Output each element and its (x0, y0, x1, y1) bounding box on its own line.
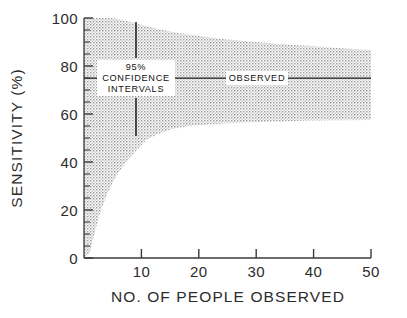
x-axis-major-ticks (141, 249, 371, 258)
x-tick-label-30: 30 (247, 263, 265, 280)
y-tick-label-0: 0 (69, 250, 78, 267)
y-tick-label-60: 60 (61, 106, 79, 123)
x-tick-label-40: 40 (305, 263, 323, 280)
confidence-band (84, 18, 371, 258)
confidence-label-line2: CONFIDENCE (102, 73, 170, 83)
observed-label: OBSERVED (229, 73, 286, 83)
y-tick-label-100: 100 (52, 10, 78, 27)
y-tick-label-20: 20 (61, 202, 79, 219)
chart-figure: 95% CONFIDENCE INTERVALS OBSERVED (0, 0, 407, 318)
confidence-label-line3: INTERVALS (108, 84, 165, 94)
y-tick-label-80: 80 (61, 58, 79, 75)
y-axis-title: SENSITIVITY (%) (8, 68, 25, 207)
x-tick-label-10: 10 (133, 263, 151, 280)
x-axis-title: NO. OF PEOPLE OBSERVED (111, 288, 345, 305)
x-tick-label-50: 50 (362, 263, 380, 280)
confidence-band-area (84, 18, 371, 258)
confidence-label-line1: 95% (126, 62, 147, 72)
sensitivity-confidence-interval-chart: 95% CONFIDENCE INTERVALS OBSERVED (0, 0, 407, 318)
y-tick-label-40: 40 (61, 154, 79, 171)
x-tick-label-20: 20 (190, 263, 208, 280)
